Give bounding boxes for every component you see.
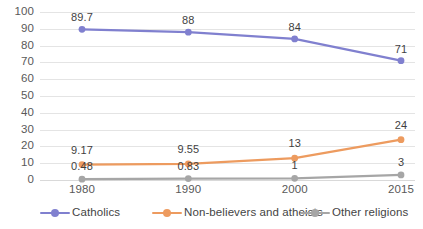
legend-label: Catholics (72, 207, 120, 219)
legend-dot (51, 209, 59, 217)
x-axis-tick-1990: 1990 (175, 183, 201, 197)
y-axis-tick-80: 80 (0, 40, 34, 52)
y-axis-tick-10: 10 (0, 157, 34, 169)
y-axis-tick-60: 60 (0, 73, 34, 85)
legend-marker-icon (152, 207, 182, 219)
legend-item-catholics[interactable]: Catholics (40, 203, 120, 223)
y-axis-tick-20: 20 (0, 141, 34, 153)
y-axis-tick-100: 100 (0, 6, 34, 18)
gridline-40 (40, 113, 415, 114)
data-label-other-religions-2000: 1 (292, 160, 298, 171)
line-chart: 0102030405060708090100 89.78884719.179.5… (0, 0, 423, 229)
data-label-catholics-1980: 89.7 (71, 12, 93, 23)
data-label-other-religions-1980: 0.48 (71, 161, 93, 172)
y-axis-tick-50: 50 (0, 90, 34, 102)
legend: CatholicsNon-believers and atheistsOther… (0, 203, 423, 229)
gridline-30 (40, 130, 415, 131)
legend-marker-icon (300, 207, 330, 219)
data-label-other-religions-1990: 0.83 (177, 161, 199, 172)
data-label-non-believers-and-atheists-2000: 13 (288, 138, 300, 149)
data-label-other-religions-2015: 3 (398, 157, 404, 168)
y-axis-tick-90: 90 (0, 23, 34, 35)
legend-dot (163, 209, 171, 217)
gridline-0 (40, 180, 415, 181)
x-axis-tick-1980: 1980 (69, 183, 95, 197)
gridline-100 (40, 12, 415, 13)
x-axis-tick-2015: 2015 (388, 183, 414, 197)
y-axis-tick-40: 40 (0, 107, 34, 119)
data-label-non-believers-and-atheists-1990: 9.55 (177, 144, 199, 155)
x-axis: 1980199020002015 (40, 183, 415, 199)
y-axis-tick-30: 30 (0, 124, 34, 136)
gridline-80 (40, 46, 415, 47)
gridline-90 (40, 29, 415, 30)
data-label-catholics-1990: 88 (182, 15, 194, 26)
gridline-50 (40, 96, 415, 97)
y-axis: 0102030405060708090100 (0, 12, 34, 180)
y-axis-tick-70: 70 (0, 57, 34, 69)
gridline-60 (40, 79, 415, 80)
legend-item-other-religions[interactable]: Other religions (300, 203, 408, 223)
legend-item-non-believers-and-atheists[interactable]: Non-believers and atheists (152, 203, 323, 223)
gridline-70 (40, 62, 415, 63)
legend-marker-icon (40, 207, 70, 219)
data-label-non-believers-and-atheists-1980: 9.17 (71, 145, 93, 156)
data-label-catholics-2000: 84 (288, 22, 300, 33)
legend-dot (311, 209, 319, 217)
gridline-10 (40, 163, 415, 164)
legend-label: Other religions (332, 207, 408, 219)
gridline-20 (40, 146, 415, 147)
plot-area (40, 12, 415, 180)
data-label-catholics-2015: 71 (395, 44, 407, 55)
x-axis-tick-2000: 2000 (282, 183, 308, 197)
y-axis-tick-0: 0 (0, 174, 34, 186)
data-label-non-believers-and-atheists-2015: 24 (395, 120, 407, 131)
